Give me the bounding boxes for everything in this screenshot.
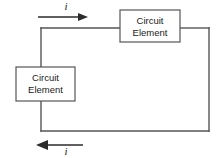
current-arrow-bottom-head bbox=[36, 140, 48, 150]
current-label-bottom: i bbox=[64, 145, 67, 157]
circuit-element-top-label-line2: Element bbox=[133, 27, 168, 38]
circuit-diagram-figure: Circuit Element Circuit Element i i bbox=[0, 0, 224, 158]
current-arrow-top: i bbox=[38, 0, 88, 21]
circuit-element-left-label-line2: Element bbox=[28, 84, 63, 95]
circuit-element-top: Circuit Element bbox=[120, 10, 180, 42]
current-label-top: i bbox=[64, 0, 67, 12]
current-arrow-top-head bbox=[78, 13, 88, 21]
circuit-element-top-label-line1: Circuit bbox=[137, 15, 164, 26]
circuit-element-left-label-line1: Circuit bbox=[32, 72, 59, 83]
circuit-element-left: Circuit Element bbox=[16, 67, 75, 101]
current-arrow-bottom: i bbox=[36, 140, 83, 157]
circuit-diagram-canvas: Circuit Element Circuit Element i i bbox=[0, 0, 224, 158]
